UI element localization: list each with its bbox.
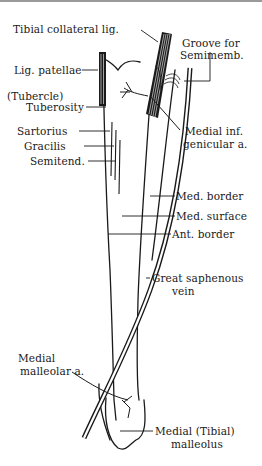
label-sartorius: Sartorius — [17, 125, 67, 137]
anterior-border-line — [103, 58, 116, 420]
label-med-surface: Med. surface — [176, 210, 247, 222]
label-med-border: Med. border — [176, 190, 243, 202]
pes-anserinus-insertions — [111, 122, 120, 194]
ligamentum-patellae — [99, 52, 106, 106]
label-medial-malleolar-2: malleolar a. — [20, 365, 84, 377]
label-medial-malleolar-1: Medial — [18, 352, 55, 364]
label-groove-semimembranosus-2: Semimemb. — [180, 49, 244, 61]
label-lig-patellae: Lig. patellae — [14, 64, 82, 76]
label-ant-border: Ant. border — [172, 228, 234, 240]
label-medial-inf-genicular-2: genicular a. — [183, 138, 247, 150]
label-medial-inf-genicular-1: Medial inf. — [185, 125, 243, 137]
label-groove-semimembranosus-1: Groove for — [182, 37, 240, 49]
label-tibial-collateral-ligament: Tibial collateral lig. — [13, 23, 119, 35]
label-gracilis: Gracilis — [24, 140, 66, 152]
label-medial-malleolus-1: Medial (Tibial) — [155, 425, 235, 437]
label-tuberosity: Tuberosity — [26, 101, 84, 113]
label-semitendinosus: Semitend. — [30, 155, 85, 167]
label-great-saphenous-2: vein — [172, 285, 195, 297]
label-great-saphenous-1: Great saphenous — [152, 272, 244, 284]
label-medial-malleolus-2: malleolus — [171, 438, 223, 450]
